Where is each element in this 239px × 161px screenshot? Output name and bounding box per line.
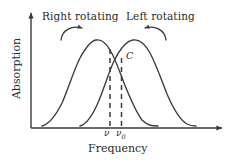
left-rotating-arrow-icon — [145, 27, 166, 40]
nu0-subscript: 0 — [121, 133, 125, 141]
right-rotating-arrow-icon — [61, 27, 82, 40]
annotation-left-rotating: Left rotating — [126, 10, 195, 22]
x-tick-label-nu: ν — [104, 128, 109, 138]
annotation-crossing-point-c: C — [126, 50, 133, 61]
y-axis-label: Absorption — [10, 31, 23, 107]
annotation-right-rotating: Right rotating — [42, 10, 119, 22]
x-axis-label: Frequency — [88, 142, 148, 155]
absorption-frequency-figure: Right rotating Left rotating C ν ν0 Freq… — [0, 0, 239, 161]
curve-right-rotating — [42, 40, 158, 126]
x-tick-label-nu0: ν0 — [116, 128, 126, 141]
